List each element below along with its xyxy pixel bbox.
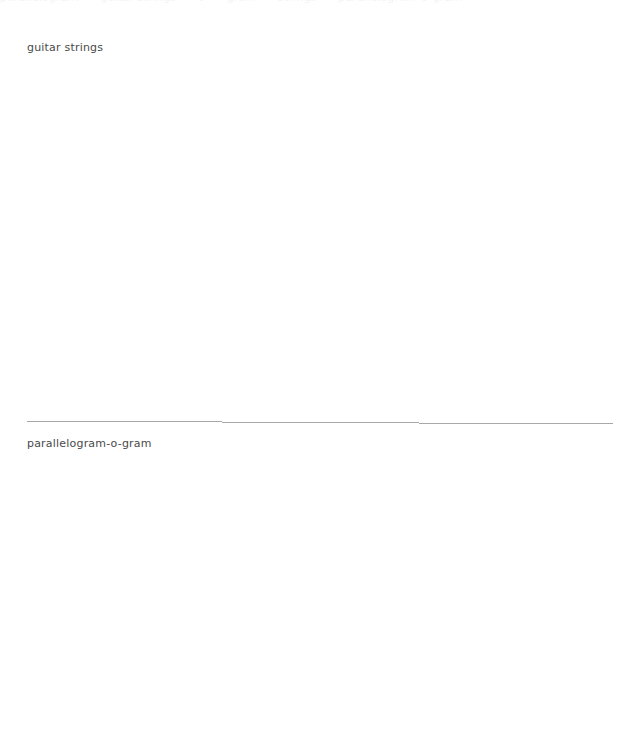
clipped-text-segment: o — [198, 0, 205, 5]
clipped-text-row-top: parallelogram guitar strings o gram stri… — [0, 0, 629, 5]
section-divider — [27, 415, 613, 429]
section-label-guitar-strings: guitar strings — [27, 41, 103, 54]
section-label-parallelogram-o-gram: parallelogram-o-gram — [27, 437, 152, 450]
clipped-text-segment: gram — [227, 0, 257, 5]
clipped-text-segment: strings — [278, 0, 316, 5]
clipped-text-segment: parallelogram-o-gram — [338, 0, 462, 5]
document-page: parallelogram guitar strings o gram stri… — [0, 0, 629, 742]
clipped-text-segment: parallelogram — [0, 0, 79, 5]
clipped-text-segment: guitar strings — [100, 0, 176, 5]
section-divider-line — [27, 415, 613, 429]
content-area: parallelogram guitar strings o gram stri… — [0, 0, 629, 742]
